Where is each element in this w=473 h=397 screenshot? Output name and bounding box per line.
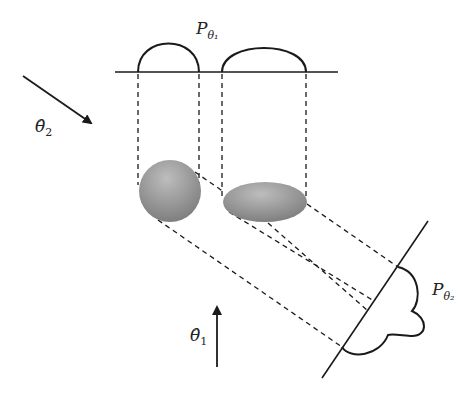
projection-cloud-profile xyxy=(342,267,424,354)
projection-bump-ellipse xyxy=(222,48,306,72)
projection-diagram: Pθ₁ Pθ₂ θ̂2 θ̂1 xyxy=(0,0,473,397)
label-p-theta1: Pθ₁ xyxy=(195,18,219,42)
projection-axis-theta2 xyxy=(322,221,428,378)
label-direction-theta2: θ̂2 xyxy=(35,116,52,139)
ellipse-object xyxy=(223,182,307,222)
projection-theta1 xyxy=(115,44,338,73)
direction-arrow-theta2 xyxy=(23,76,91,123)
projection-bump-circle xyxy=(138,44,199,73)
label-direction-theta1: θ̂1 xyxy=(190,325,207,348)
label-p-theta2: Pθ₂ xyxy=(431,279,455,303)
projection-theta2 xyxy=(322,221,428,378)
circle-object xyxy=(139,160,201,222)
